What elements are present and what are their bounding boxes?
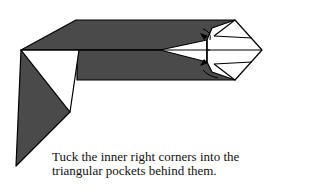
caption-line-1: Tuck the inner right corners into the: [52, 150, 277, 164]
caption-line-2: triangular pockets behind them.: [52, 164, 277, 178]
instruction-caption: Tuck the inner right corners into the tr…: [52, 150, 277, 178]
